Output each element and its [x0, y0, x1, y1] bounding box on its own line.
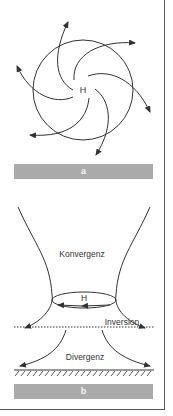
divergence-arrow-right [102, 330, 150, 366]
caption-bar-b: b [14, 384, 153, 399]
inversion-label: Inversion [105, 317, 140, 327]
outflow-arrow-6 [74, 43, 135, 80]
caption-bar-a: a [14, 164, 153, 179]
high-pressure-label-a: H [80, 85, 87, 95]
convergence-arrow-right [116, 207, 150, 328]
outflow-arrow-1 [58, 22, 73, 90]
outflow-arrow-4 [95, 89, 108, 155]
anticyclone-vertical-section [14, 207, 154, 376]
divergence-label: Divergenz [66, 352, 104, 362]
convergence-label: Konvergenz [59, 249, 104, 259]
convergence-arrow-left [18, 207, 52, 328]
ground-hatching [15, 371, 151, 376]
diagram-canvas: H Konvergenz H Inversion Divergenz [0, 0, 173, 416]
outflow-arrow-5 [88, 74, 150, 112]
outflow-arrow-3 [30, 98, 89, 135]
high-pressure-label-b: H [81, 293, 87, 303]
divergence-arrow-left [20, 330, 66, 366]
